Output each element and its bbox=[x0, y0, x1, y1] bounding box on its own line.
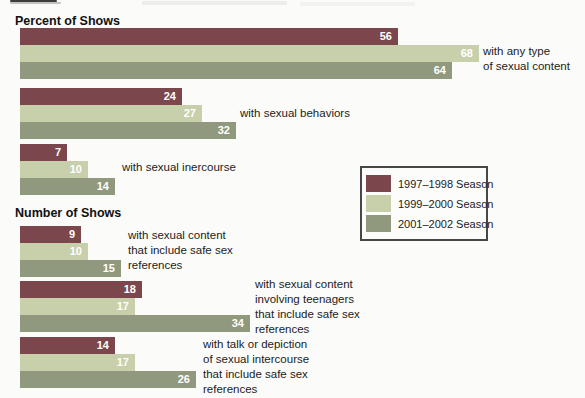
legend-label: 1997–1998 Season bbox=[398, 178, 493, 190]
chart-figure: Percent of Shows Number of Shows 566864w… bbox=[0, 0, 585, 398]
group-label-line: with sexual inercourse bbox=[122, 160, 236, 175]
legend-label: 2001–2002 Season bbox=[398, 218, 493, 230]
bar-value-label: 9 bbox=[69, 226, 75, 243]
bar-season-2001-2002: 32 bbox=[20, 122, 236, 139]
group-label-line: that include safe sex bbox=[255, 307, 360, 322]
bar-value-label: 64 bbox=[434, 62, 446, 79]
bar-value-label: 24 bbox=[164, 88, 176, 105]
bar-value-label: 34 bbox=[232, 315, 244, 332]
legend: 1997–1998 Season1999–2000 Season2001–200… bbox=[360, 166, 488, 241]
group-label: with talk or depictionof sexual intercou… bbox=[203, 337, 309, 397]
group-label-line: with sexual behaviors bbox=[240, 106, 350, 121]
group-label-line: that include safe sex bbox=[203, 367, 309, 382]
cropped-text-fragment bbox=[300, 2, 415, 6]
section-heading-percent-of-shows: Percent of Shows bbox=[15, 14, 120, 28]
bar-season-1999-2000: 17 bbox=[20, 298, 135, 315]
bar-value-label: 10 bbox=[70, 243, 82, 260]
bar-season-1997-1998: 18 bbox=[20, 281, 142, 298]
group-label-line: references bbox=[255, 322, 360, 337]
bar-value-label: 7 bbox=[55, 144, 61, 161]
legend-swatch-season-1997-1998 bbox=[366, 175, 391, 192]
group-label: with sexual contentinvolving teenagersth… bbox=[255, 277, 360, 337]
group-label-line: with sexual content bbox=[128, 228, 233, 243]
bar-value-label: 14 bbox=[97, 337, 109, 354]
group-label: with sexual contentthat include safe sex… bbox=[128, 228, 233, 273]
section-heading-number-of-shows: Number of Shows bbox=[15, 206, 121, 220]
bar-season-1997-1998: 9 bbox=[20, 226, 81, 243]
group-label-line: involving teenagers bbox=[255, 292, 360, 307]
bar-season-1999-2000: 27 bbox=[20, 105, 202, 122]
bar-group: 242732with sexual behaviors bbox=[0, 88, 585, 139]
group-label-line: of sexual content bbox=[483, 59, 570, 74]
group-label-line: with talk or depiction bbox=[203, 337, 309, 352]
bar-season-1999-2000: 68 bbox=[20, 45, 479, 62]
bar-season-2001-2002: 34 bbox=[20, 315, 250, 332]
bar-value-label: 15 bbox=[103, 260, 115, 277]
group-label-line: of sexual intercourse bbox=[203, 352, 309, 367]
bar-season-2001-2002: 14 bbox=[20, 178, 115, 195]
group-label: with any typeof sexual content bbox=[483, 44, 570, 74]
cropped-text-fragment bbox=[10, 2, 61, 4]
bar-value-label: 56 bbox=[380, 28, 392, 45]
group-label-line: with sexual content bbox=[255, 277, 360, 292]
bar-value-label: 10 bbox=[70, 161, 82, 178]
bar-value-label: 18 bbox=[124, 281, 136, 298]
bar-value-label: 17 bbox=[117, 354, 129, 371]
bar-value-label: 68 bbox=[461, 45, 473, 62]
bar-season-2001-2002: 64 bbox=[20, 62, 452, 79]
group-label: with sexual inercourse bbox=[122, 160, 236, 175]
legend-swatch-season-2001-2002 bbox=[366, 215, 391, 232]
group-label-line: with any type bbox=[483, 44, 570, 59]
bar-group: 566864with any typeof sexual content bbox=[0, 28, 585, 79]
group-label-line: references bbox=[203, 382, 309, 397]
legend-item: 2001–2002 Season bbox=[366, 215, 482, 232]
bar-group: 181734with sexual contentinvolving teena… bbox=[0, 281, 585, 332]
bar-group: 71014with sexual inercourse bbox=[0, 144, 585, 195]
bar-value-label: 32 bbox=[218, 122, 230, 139]
bar-season-1999-2000: 17 bbox=[20, 354, 135, 371]
bar-value-label: 14 bbox=[97, 178, 109, 195]
bar-value-label: 26 bbox=[178, 371, 190, 388]
bar-season-1997-1998: 24 bbox=[20, 88, 182, 105]
bar-value-label: 17 bbox=[117, 298, 129, 315]
legend-item: 1997–1998 Season bbox=[366, 175, 482, 192]
bar-season-2001-2002: 26 bbox=[20, 371, 196, 388]
bar-season-1997-1998: 14 bbox=[20, 337, 115, 354]
bar-value-label: 27 bbox=[184, 105, 196, 122]
group-label: with sexual behaviors bbox=[240, 106, 350, 121]
cropped-text-fragment bbox=[142, 1, 287, 5]
bar-season-1997-1998: 7 bbox=[20, 144, 67, 161]
bar-season-2001-2002: 15 bbox=[20, 260, 121, 277]
bar-season-1997-1998: 56 bbox=[20, 28, 398, 45]
bar-group: 91015with sexual contentthat include saf… bbox=[0, 226, 585, 277]
group-label-line: that include safe sex bbox=[128, 243, 233, 258]
legend-item: 1999–2000 Season bbox=[366, 195, 482, 212]
group-label-line: references bbox=[128, 258, 233, 273]
legend-swatch-season-1999-2000 bbox=[366, 195, 391, 212]
bar-season-1999-2000: 10 bbox=[20, 243, 88, 260]
legend-label: 1999–2000 Season bbox=[398, 198, 493, 210]
bar-group: 141726with talk or depictionof sexual in… bbox=[0, 337, 585, 388]
bar-season-1999-2000: 10 bbox=[20, 161, 88, 178]
